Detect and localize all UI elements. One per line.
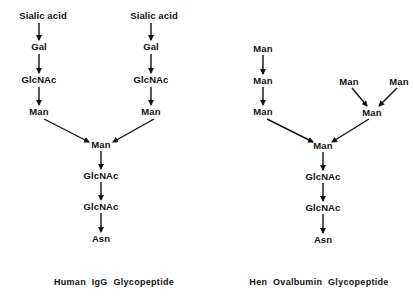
caption-human-igg: Human IgG Glycopeptide [54, 278, 174, 287]
node-asn: Asn [314, 235, 332, 245]
node-gal-right: Gal [143, 42, 159, 52]
arrow-icon [352, 88, 367, 106]
node-man-left: Man [29, 107, 48, 117]
node-man-core: Man [91, 140, 110, 150]
glycopeptide-diagram: Sialic acid Gal GlcNAc Man Sialic acid G… [0, 0, 413, 298]
node-man-branch-b-merge: Man [362, 108, 381, 118]
node-sialic-acid-right: Sialic acid [130, 11, 178, 21]
arrow-icon [267, 119, 313, 142]
arrow-icon [379, 88, 397, 106]
node-glcnac-core-1: GlcNAc [84, 171, 119, 181]
node-sialic-acid-left: Sialic acid [19, 11, 67, 21]
arrow-icon [113, 119, 154, 142]
arrows-layer [0, 0, 413, 298]
node-glcnac-core-2: GlcNAc [306, 203, 341, 213]
node-man-branch-b-left: Man [339, 77, 358, 87]
node-man-right: Man [141, 107, 160, 117]
node-gal-left: Gal [31, 42, 47, 52]
arrow-icon [332, 119, 369, 142]
caption-hen-ovalbumin: Hen Ovalbumin Glycopeptide [249, 278, 388, 287]
node-man-branch-b-right: Man [389, 77, 408, 87]
node-glcnac-right: GlcNAc [134, 75, 169, 85]
node-glcnac-core-2: GlcNAc [84, 202, 119, 212]
node-asn: Asn [92, 234, 110, 244]
node-man-chain-a-2: Man [253, 76, 272, 86]
node-man-chain-a-3: Man [253, 107, 272, 117]
arrow-icon [44, 119, 89, 142]
node-man-chain-a-1: Man [253, 44, 272, 54]
node-glcnac-left: GlcNAc [22, 75, 57, 85]
node-glcnac-core-1: GlcNAc [306, 172, 341, 182]
node-man-core: Man [313, 141, 332, 151]
